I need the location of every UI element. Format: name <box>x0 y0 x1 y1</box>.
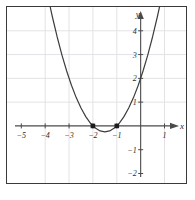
x-tick-label: −5 <box>17 131 26 140</box>
data-point-marker <box>91 124 96 129</box>
y-tick-label: 2 <box>133 74 137 83</box>
y-tick-label: −1 <box>127 146 136 155</box>
figure-frame: xy−5−4−3−2−11−2−11234 <box>6 6 187 184</box>
x-tick-label: −1 <box>112 131 121 140</box>
x-axis-arrow-icon <box>170 123 179 129</box>
parabola-graph-svg: xy−5−4−3−2−11−2−11234 <box>7 7 186 183</box>
y-tick-label: 4 <box>133 27 137 36</box>
y-tick-label: −2 <box>127 169 136 178</box>
y-tick-label: 3 <box>132 51 137 60</box>
y-axis-label: y <box>135 9 140 19</box>
x-tick-label: −4 <box>40 131 49 140</box>
data-point-marker <box>114 124 119 129</box>
x-tick-label: 1 <box>163 131 167 140</box>
parabola-curve <box>48 7 166 132</box>
x-tick-label: −2 <box>88 131 97 140</box>
graph-plot-area: xy−5−4−3−2−11−2−11234 <box>7 7 186 183</box>
x-tick-label: −3 <box>64 131 73 140</box>
x-axis-label: x <box>179 121 184 131</box>
